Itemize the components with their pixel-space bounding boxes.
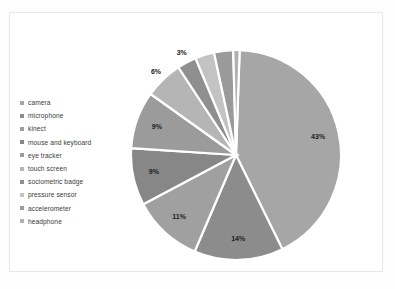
legend-item: camera: [20, 96, 130, 109]
pie-slice-label: 11%: [172, 213, 186, 220]
legend-swatch-icon: [20, 193, 24, 197]
legend-swatch-icon: [20, 219, 24, 223]
legend-item-label: eye tracker: [28, 149, 62, 162]
legend-swatch-icon: [20, 127, 24, 131]
legend-item: headphone: [20, 215, 130, 228]
legend-item: eye tracker: [20, 149, 130, 162]
pie-slice-label: 14%: [231, 235, 246, 242]
legend-swatch-icon: [20, 153, 24, 157]
legend-swatch-icon: [20, 206, 24, 210]
legend-item-label: mouse and keyboard: [28, 136, 91, 149]
legend-swatch-icon: [20, 101, 24, 105]
legend-item-label: kinect: [28, 122, 46, 135]
legend-item-label: pressure sensor: [28, 188, 77, 201]
legend-item: mouse and keyboard: [20, 136, 130, 149]
pie-slice-label: 9%: [149, 168, 160, 175]
chart-legend: cameramicrophonekinectmouse and keyboard…: [20, 96, 130, 228]
legend-item-label: sociometric badge: [28, 175, 83, 188]
pie-chart: 43%14%11%9%9%6%3%3%3%1%: [129, 48, 343, 262]
pie-slice-label: 3%: [177, 49, 188, 56]
legend-item: accelerometer: [20, 202, 130, 215]
legend-item: touch screen: [20, 162, 130, 175]
figure-canvas: cameramicrophonekinectmouse and keyboard…: [0, 0, 395, 289]
legend-item-label: headphone: [28, 215, 62, 228]
pie-slice-group: [131, 50, 341, 260]
pie-slice-label: 43%: [311, 133, 326, 140]
legend-item: pressure sensor: [20, 188, 130, 201]
pie-slice-label: 6%: [151, 68, 162, 75]
legend-item-label: accelerometer: [28, 202, 71, 215]
legend-item: sociometric badge: [20, 175, 130, 188]
pie-slice-label: 9%: [152, 123, 163, 130]
legend-swatch-icon: [20, 114, 24, 118]
legend-item: kinect: [20, 122, 130, 135]
legend-swatch-icon: [20, 180, 24, 184]
pie-chart-svg: 43%14%11%9%9%6%3%3%3%1%: [129, 48, 343, 262]
legend-item-label: camera: [28, 96, 51, 109]
legend-item: microphone: [20, 109, 130, 122]
legend-item-label: microphone: [28, 109, 63, 122]
legend-item-label: touch screen: [28, 162, 67, 175]
legend-swatch-icon: [20, 167, 24, 171]
legend-swatch-icon: [20, 140, 24, 144]
